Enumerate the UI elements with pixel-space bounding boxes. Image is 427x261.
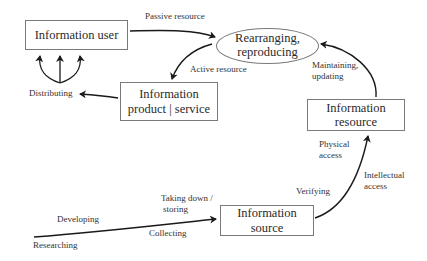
label-taking-down-storing: Taking down / storing — [161, 193, 213, 215]
label-maintaining-line1: Maintaining, — [312, 60, 358, 71]
node-resource-line1: Information — [326, 101, 386, 115]
label-physical-access: Physical access — [319, 139, 350, 161]
node-resource-line2: resource — [326, 115, 386, 129]
arrow-fan-right — [60, 56, 80, 83]
label-intellectual-access: Intellectual access — [364, 170, 404, 192]
label-passive-resource: Passive resource — [145, 11, 205, 22]
label-intellectual-line2: access — [364, 181, 404, 192]
label-physical-line2: access — [319, 150, 350, 161]
label-researching: Researching — [33, 240, 77, 251]
label-taking-down-line1: Taking down / — [161, 193, 213, 204]
arrow-passive-resource — [130, 31, 215, 37]
label-verifying: Verifying — [296, 186, 330, 197]
node-product-line1: Information — [128, 87, 210, 101]
node-information-user: Information user — [25, 20, 128, 50]
node-source-line2: source — [237, 221, 297, 235]
label-taking-down-line2: storing — [161, 204, 213, 215]
label-maintaining-line2: updating — [312, 71, 358, 82]
label-active-resource: Active resource — [190, 64, 247, 75]
label-physical-line1: Physical — [319, 139, 350, 150]
label-collecting: Collecting — [149, 228, 187, 239]
node-information-resource: Information resource — [307, 99, 405, 131]
node-information-product-service: Information product | service — [120, 82, 218, 121]
label-intellectual-line1: Intellectual — [364, 170, 404, 181]
node-information-source: Information source — [220, 205, 314, 236]
label-distributing: Distributing — [29, 88, 73, 99]
node-information-user-label: Information user — [35, 28, 119, 42]
node-source-line1: Information — [237, 206, 297, 220]
node-rearranging-line2: reproducing — [235, 46, 300, 60]
label-developing: Developing — [57, 214, 99, 225]
node-rearranging-line1: Rearranging, — [235, 32, 300, 46]
node-product-line2: product | service — [128, 102, 210, 116]
arrow-distributing — [80, 94, 118, 98]
node-rearranging-reproducing: Rearranging, reproducing — [216, 28, 319, 64]
arrow-fan-left — [40, 56, 60, 83]
label-maintaining-updating: Maintaining, updating — [312, 60, 358, 82]
